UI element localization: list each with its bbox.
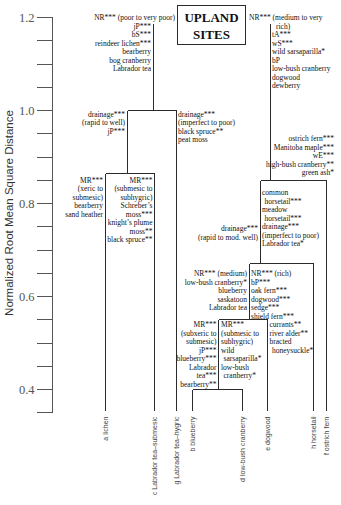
leaf-label: e dogwood — [264, 416, 272, 450]
annotation-group-root-left: jP***bS***reindeer lichen***bearberrybog… — [95, 22, 152, 74]
annotation-line: cranberry* — [224, 371, 257, 380]
dendrogram-chart: 1.21.00.80.60.4 Normalized Root Mean Squ… — [0, 0, 341, 505]
leaf-label: a lichen — [102, 416, 109, 440]
y-axis-title: Normalized Root Mean Square Distance — [3, 110, 15, 316]
title-line-2: SITES — [193, 27, 230, 42]
annotation-group-bd-left: MR***(subxeric tosubmesic)jP***blueberry… — [177, 320, 218, 389]
annotation-line: black spruce** — [107, 235, 152, 244]
annotation-line: sand heather — [65, 210, 103, 219]
annotation-line: dewberry — [272, 81, 301, 90]
y-tick-label: 0.6 — [19, 290, 35, 304]
annotation-group-bdeh-left-upper: drainage***(rapid to mod. well) — [198, 224, 258, 242]
annotation-group-root-right: NR*** (medium to veryrich)tA***wS***wild… — [249, 13, 331, 90]
title-box: UPLAND SITES — [178, 6, 246, 45]
annotation-group-bde-right: NR*** (rich)bP***oak fern***dogwood***se… — [251, 269, 294, 321]
annotation-line: Labrador tea — [209, 303, 248, 312]
leaf-label: h horsetail — [310, 416, 317, 449]
annotation-group-bde-right-lower: currants**river alder**bractedhoneysuckl… — [270, 320, 314, 355]
annotation-line: bearberry** — [180, 380, 216, 389]
leaf-label: d low-bush cranberry — [239, 416, 247, 482]
annotation-group-acg-left: drainage***(rapid to well)jP*** — [82, 110, 125, 136]
leaf-label: f ostrich fern — [323, 416, 330, 455]
leaf-label: g Labrador tea–hygric — [173, 416, 181, 485]
annotation-line: peat moss — [178, 135, 208, 144]
annotation-line: green ash* — [302, 168, 335, 177]
y-tick-label: 1.0 — [19, 104, 35, 118]
annotation-line: wild sarsaparilla* — [272, 47, 325, 56]
annotation-line: honeysuckle* — [272, 346, 313, 355]
leaf-label: b blueberry — [189, 416, 197, 452]
annotation-line: jP*** — [106, 127, 125, 136]
annotation-group-acg-right: drainage***(imperfect to poor)black spru… — [178, 110, 236, 145]
annotation-group-bd-right: MR***(submesic tosubhygric)wildsarsapari… — [221, 320, 262, 380]
annotation-group-bdeh-right-upper: commonhorsetail***meadowhorsetail***drai… — [262, 188, 320, 248]
y-tick-label: 0.8 — [19, 197, 35, 211]
y-tick-label: 1.2 — [19, 11, 35, 25]
y-tick-label: 0.4 — [19, 383, 35, 397]
annotation-line: Labrador tea* — [262, 239, 304, 248]
leaf-labels: a lichenc Labrador tea–submesicg Labrado… — [102, 416, 330, 495]
y-axis: 1.21.00.80.60.4 — [19, 11, 53, 413]
annotation-group-ac-left: MR***(xeric tosubmesic)bearberrysand hea… — [65, 176, 103, 219]
annotation-group-ac-right: MR***(submesic tosubhygric)Schreber’smos… — [107, 176, 153, 245]
annotation-line: (rapid to mod. well) — [198, 233, 258, 242]
leaf-label: c Labrador tea–submesic — [151, 416, 158, 495]
annotation-line: Labrador tea — [113, 64, 152, 73]
annotation-group-bde-left: NR*** (medium)low-bush cranberry*blueber… — [185, 269, 248, 312]
annotation-group-bdehf-right: ostrich fern***Manitoba maple***wE***hig… — [266, 134, 334, 177]
title-line-1: UPLAND — [184, 10, 238, 25]
